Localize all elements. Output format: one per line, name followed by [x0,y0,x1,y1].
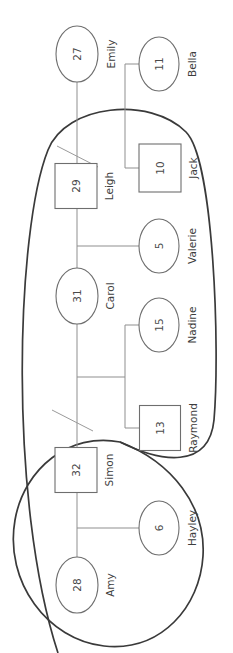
node-label-jack: Jack [187,156,199,179]
node-value-carol: 31 [71,289,83,302]
node-valerie[interactable]: 5 Valerie [139,219,198,273]
node-raymond[interactable]: 13 Raymond [140,403,200,453]
node-hayley[interactable]: 6 Hayley [139,501,198,555]
link-bella-spine [125,64,139,168]
node-emily[interactable]: 27 Emily [56,26,117,82]
node-nadine[interactable]: 15 Nadine [139,298,198,352]
node-value-nadine: 15 [153,318,165,331]
node-value-bella: 11 [153,57,165,70]
node-value-valerie: 5 [153,243,165,250]
node-value-simon: 32 [70,463,82,476]
node-bella[interactable]: 11 Bella [139,37,198,91]
genogram-diagram: 27 Emily 11 Bella 10 Jack 29 Leigh 5 Val… [0,0,233,653]
node-label-raymond: Raymond [187,403,199,453]
node-label-bella: Bella [186,51,198,77]
node-label-hayley: Hayley [186,510,198,546]
node-value-jack: 10 [154,161,166,174]
node-label-carol: Carol [104,282,116,309]
node-carol[interactable]: 31 Carol [56,268,116,324]
node-label-valerie: Valerie [186,228,198,264]
node-label-amy: Amy [104,573,116,597]
node-value-amy: 28 [71,578,83,591]
link-nadine-spine [125,325,139,428]
node-label-leigh: Leigh [103,172,115,200]
separation-mark-lower [52,410,93,431]
node-amy[interactable]: 28 Amy [56,557,116,613]
node-simon[interactable]: 32 Simon [55,448,115,493]
node-label-nadine: Nadine [186,307,198,344]
node-leigh[interactable]: 29 Leigh [55,164,115,209]
node-value-emily: 27 [71,47,83,60]
node-label-simon: Simon [103,454,115,487]
node-value-leigh: 29 [70,179,82,192]
node-label-emily: Emily [105,40,117,69]
genogram-canvas: 27 Emily 11 Bella 10 Jack 29 Leigh 5 Val… [0,0,233,653]
node-value-raymond: 13 [154,421,166,434]
node-jack[interactable]: 10 Jack [139,144,199,192]
node-value-hayley: 6 [153,524,165,531]
household-boundary-upper [22,109,216,653]
